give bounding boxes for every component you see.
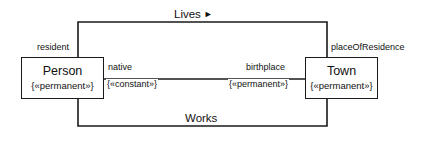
uml-class-diagram: Person {«permanent»} Town {«permanent»} … bbox=[0, 0, 433, 141]
class-name-town: Town bbox=[327, 64, 356, 79]
navigation-arrow-icon: ► bbox=[204, 8, 213, 21]
role-constraint-birthplace: {«permanent»} bbox=[228, 79, 289, 90]
role-label-birthplace: birthplace bbox=[245, 62, 286, 73]
class-name-person: Person bbox=[43, 64, 83, 79]
role-label-native: native bbox=[107, 62, 133, 73]
class-box-person[interactable]: Person {«permanent»} bbox=[21, 57, 104, 99]
lives-association-path bbox=[78, 22, 327, 57]
association-name-works: Works bbox=[182, 112, 220, 125]
role-label-place-of-residence: placeOfResidence bbox=[330, 42, 406, 53]
class-stereotype-town: {«permanent»} bbox=[310, 79, 372, 92]
association-name-lives: Lives► bbox=[171, 8, 216, 21]
role-label-resident: resident bbox=[36, 42, 70, 53]
class-stereotype-person: {«permanent»} bbox=[31, 79, 93, 92]
association-name-lives-text: Lives bbox=[174, 8, 201, 20]
class-box-town[interactable]: Town {«permanent»} bbox=[305, 57, 378, 99]
role-constraint-native: {«constant»} bbox=[106, 79, 158, 90]
